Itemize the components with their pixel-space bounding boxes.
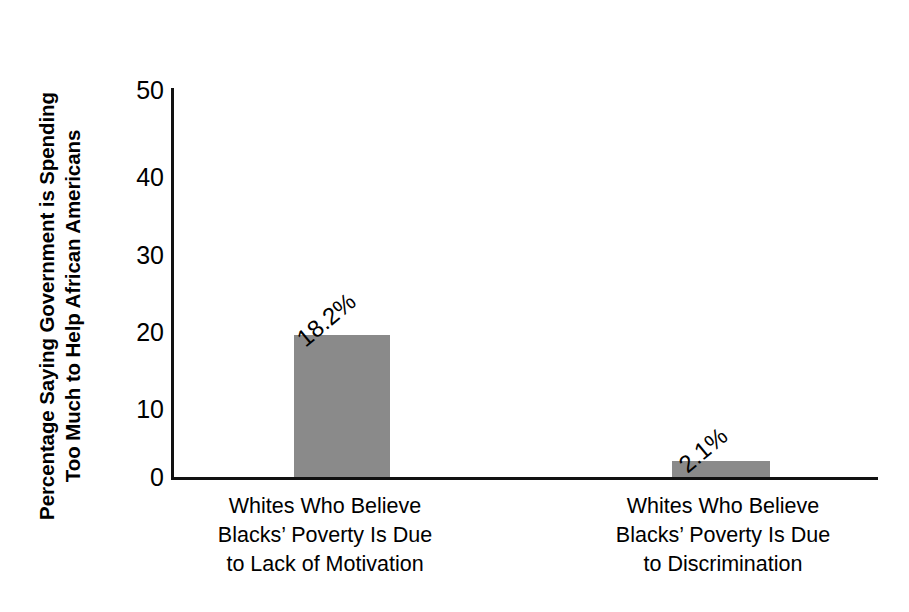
y-tick-label-0: 0	[118, 465, 164, 490]
y-axis-title-line-2: Too Much to Help African Americans	[60, 92, 86, 520]
category-label-2-line-1: Whites Who Believe	[578, 492, 868, 521]
category-label-2-line-3: to Discrimination	[578, 550, 868, 579]
category-label-1-line-1: Whites Who Believe	[180, 492, 470, 521]
y-axis-line	[171, 88, 174, 480]
category-label-1-line-2: Blacks’ Poverty Is Due	[180, 521, 470, 550]
category-label-1-line-3: to Lack of Motivation	[180, 550, 470, 579]
y-tick-label-40: 40	[118, 165, 164, 190]
y-tick-label-10: 10	[118, 397, 164, 422]
category-label-1: Whites Who Believe Blacks’ Poverty Is Du…	[180, 492, 470, 579]
category-label-2: Whites Who Believe Blacks’ Poverty Is Du…	[578, 492, 868, 579]
bar-whites-lack-of-motivation	[294, 335, 390, 477]
y-tick-label-20: 20	[118, 320, 164, 345]
y-axis-title: Percentage Saying Government is Spending…	[0, 0, 120, 612]
y-axis-tick-labels: 50 40 30 20 10 0	[108, 0, 164, 612]
bar-chart-figure: Percentage Saying Government is Spending…	[0, 0, 909, 612]
y-tick-label-50: 50	[118, 78, 164, 103]
category-label-2-line-2: Blacks’ Poverty Is Due	[578, 521, 868, 550]
y-axis-title-line-1: Percentage Saying Government is Spending	[34, 92, 60, 520]
x-axis-line	[171, 477, 878, 480]
y-tick-label-30: 30	[118, 243, 164, 268]
